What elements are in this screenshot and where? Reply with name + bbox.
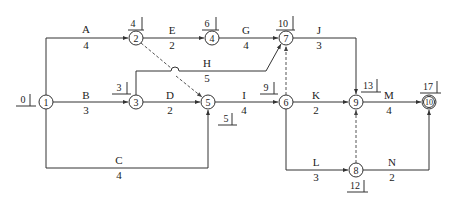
- node-3: 3: [129, 95, 143, 109]
- activity-c-duration: 4: [116, 169, 122, 181]
- svg-text:17: 17: [423, 81, 433, 92]
- activity-m-label: M: [384, 89, 394, 101]
- activity-h: H 5: [136, 44, 281, 95]
- svg-text:3: 3: [134, 97, 139, 108]
- activity-l: L 3: [286, 109, 348, 183]
- node-5: 5: [201, 95, 215, 109]
- activity-m: M 4: [363, 89, 421, 116]
- activity-j-duration: 3: [316, 39, 322, 51]
- activity-l-duration: 3: [313, 171, 319, 183]
- node-8: 8: [349, 163, 363, 177]
- svg-text:9: 9: [354, 97, 359, 108]
- activity-a-duration: 4: [83, 39, 89, 51]
- activity-e-duration: 2: [169, 39, 175, 51]
- node-9: 9: [349, 95, 363, 109]
- activity-c-label: C: [115, 154, 122, 166]
- activity-a-label: A: [82, 23, 90, 35]
- svg-text:5: 5: [206, 97, 211, 108]
- time-node-1: 0: [16, 94, 36, 106]
- activity-k-label: K: [312, 89, 320, 101]
- activity-n-label: N: [388, 156, 396, 168]
- svg-text:9: 9: [264, 82, 269, 93]
- time-node-7: 10: [276, 16, 295, 30]
- activity-n-duration: 2: [389, 171, 395, 183]
- time-node-4: 6: [202, 17, 219, 30]
- svg-text:10: 10: [278, 18, 288, 29]
- svg-text:12: 12: [350, 180, 360, 191]
- activity-e: E 2: [143, 24, 204, 51]
- svg-text:4: 4: [131, 18, 136, 29]
- svg-text:5: 5: [224, 113, 229, 124]
- activity-g-label: G: [242, 24, 250, 36]
- activity-h-duration: 5: [204, 72, 210, 84]
- svg-text:3: 3: [117, 82, 122, 93]
- node-6: 6: [279, 95, 293, 109]
- activity-l-label: L: [313, 156, 320, 168]
- activity-d: D 2: [143, 89, 200, 116]
- svg-text:1: 1: [44, 97, 49, 108]
- activity-j: J 3: [293, 24, 356, 94]
- activity-e-label: E: [169, 24, 176, 36]
- activity-g: G 4: [219, 24, 278, 51]
- node-10: 10: [422, 95, 436, 109]
- time-node-5: 5: [218, 113, 237, 125]
- activity-i-label: I: [242, 89, 246, 101]
- svg-text:7: 7: [284, 33, 289, 44]
- activity-m-duration: 4: [386, 104, 392, 116]
- activity-j-label: J: [317, 24, 322, 36]
- node-1: 1: [39, 95, 53, 109]
- svg-text:2: 2: [134, 33, 139, 44]
- svg-text:6: 6: [205, 18, 210, 29]
- time-node-3: 3: [112, 82, 131, 94]
- activity-i: I 4: [215, 89, 278, 116]
- activity-h-label: H: [203, 57, 211, 69]
- node-4: 4: [205, 31, 219, 45]
- time-node-8: 12: [347, 180, 368, 192]
- activity-d-label: D: [166, 89, 174, 101]
- time-node-6: 9: [260, 82, 278, 94]
- svg-text:8: 8: [354, 165, 359, 176]
- node-2: 2: [129, 31, 143, 45]
- svg-text:6: 6: [284, 97, 289, 108]
- activity-k: K 2: [293, 89, 348, 116]
- svg-text:10: 10: [425, 98, 433, 107]
- activity-k-duration: 2: [313, 104, 319, 116]
- svg-text:13: 13: [363, 80, 373, 91]
- activity-i-duration: 4: [241, 104, 247, 116]
- activity-b-duration: 3: [83, 104, 89, 116]
- network-diagram: A 4 B 3 C 4 D 2 E 2 G 4 H 5 I 4: [0, 0, 453, 202]
- svg-text:0: 0: [21, 94, 26, 105]
- node-7: 7: [279, 31, 293, 45]
- activity-d-duration: 2: [167, 104, 173, 116]
- activity-g-duration: 4: [243, 39, 249, 51]
- svg-text:4: 4: [210, 33, 215, 44]
- activity-b-label: B: [82, 89, 89, 101]
- activity-n: N 2: [363, 110, 429, 183]
- time-node-9: 13: [361, 79, 381, 92]
- activity-b: B 3: [53, 89, 128, 116]
- activity-c: C 4: [46, 109, 208, 181]
- time-node-2: 4: [128, 17, 144, 30]
- time-node-10: 17: [420, 81, 441, 93]
